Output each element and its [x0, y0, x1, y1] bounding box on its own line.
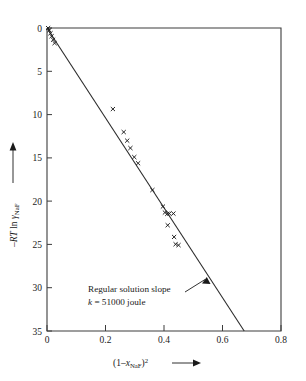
data-point-markers: [46, 26, 181, 247]
data-point-marker: [111, 107, 115, 111]
y-axis-tick-labels: 0 5 10 15 20 25 30 35: [33, 24, 43, 337]
annotation-pointer-arrow: [185, 277, 211, 292]
annotation-line-1: Regular solution slope: [88, 284, 171, 294]
x-axis-tick-labels: 0 0.2 0.4 0.6 0.8: [45, 335, 288, 345]
x-axis-subscript: NaF: [130, 362, 142, 369]
x-axis-superscript: 2: [145, 357, 149, 364]
x-tick-label-0-4: 0.4: [158, 335, 170, 345]
y-axis-title-group: –RT ln γNaF: [9, 142, 20, 248]
y-tick-label-30: 30: [33, 283, 43, 293]
y-tick-label-20: 20: [33, 197, 43, 207]
y-axis-ticks: [47, 28, 52, 331]
x-tick-label-0: 0: [45, 335, 50, 345]
y-axis-subscript: NaF: [13, 203, 20, 215]
y-tick-label-5: 5: [37, 67, 42, 77]
y-tick-label-0: 0: [37, 24, 42, 34]
y-axis-ln: ln: [9, 219, 19, 231]
annotation-k-value: = 51000 joule: [92, 297, 145, 307]
annotation-text: Regular solution slope k = 51000 joule: [88, 284, 171, 307]
x-axis-ticks: [47, 325, 281, 331]
x-tick-label-0-8: 0.8: [275, 335, 287, 345]
data-point-marker: [136, 161, 140, 165]
y-axis-title: –RT ln γNaF: [9, 203, 20, 248]
data-point-marker: [171, 212, 175, 216]
y-tick-label-35: 35: [33, 327, 43, 337]
annotation-line-2: k = 51000 joule: [88, 297, 146, 307]
y-tick-label-10: 10: [33, 110, 43, 120]
x-tick-label-0-2: 0.2: [100, 335, 112, 345]
data-point-marker: [132, 155, 136, 159]
x-axis-title: (1–xNaF)2: [113, 357, 149, 370]
data-point-marker: [125, 139, 129, 143]
y-axis-rt: RT: [9, 230, 19, 243]
figure-container: 0 5 10 15 20 25 30 35 0 0.2 0.4 0.6 0.8: [0, 0, 306, 381]
y-tick-label-15: 15: [33, 153, 43, 163]
scatter-plot: 0 5 10 15 20 25 30 35 0 0.2 0.4 0.6 0.8: [0, 0, 306, 381]
x-axis-title-group: (1–xNaF)2: [113, 357, 201, 370]
x-tick-label-0-6: 0.6: [217, 335, 229, 345]
data-point-marker: [128, 146, 132, 150]
data-point-marker: [172, 235, 176, 239]
data-point-marker: [150, 188, 154, 192]
y-tick-label-25: 25: [33, 240, 43, 250]
data-point-marker: [166, 223, 170, 227]
data-point-marker: [122, 130, 126, 134]
x-axis-prefix: (1–: [113, 358, 126, 369]
